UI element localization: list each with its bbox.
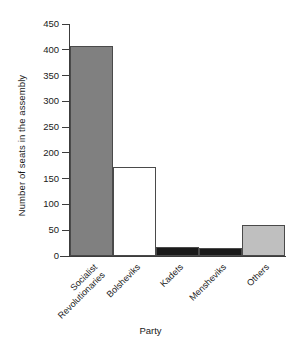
bar-bolsheviks xyxy=(113,167,156,256)
y-axis-tick-label: 150 xyxy=(43,174,59,184)
bar-kadets xyxy=(156,247,199,256)
y-axis-tick xyxy=(62,75,69,76)
bar-others xyxy=(242,225,285,256)
bar-socialist-revolutionaries xyxy=(70,46,113,256)
y-axis-tick-label: 250 xyxy=(43,122,59,132)
x-axis-line xyxy=(60,256,286,257)
y-axis-tick xyxy=(62,101,69,102)
y-axis-tick xyxy=(62,178,69,179)
y-axis-tick xyxy=(62,204,69,205)
y-axis-tick-label: 400 xyxy=(43,45,59,55)
y-axis-tick-label: 300 xyxy=(43,96,59,106)
y-axis-tick xyxy=(62,152,69,153)
y-axis-tick-label: 200 xyxy=(43,148,59,158)
y-axis-tick-label: 350 xyxy=(43,71,59,81)
bar-chart: Number of seats in the assembly 05010015… xyxy=(0,0,301,346)
y-axis-tick-label: 0 xyxy=(54,251,59,261)
bar-mensheviks xyxy=(199,248,242,256)
x-axis-title: Party xyxy=(0,325,301,336)
y-axis-tick-label: 100 xyxy=(43,199,59,209)
y-axis-title: Number of seats in the assembly xyxy=(16,41,27,251)
plot-area xyxy=(70,24,285,256)
y-axis-tick xyxy=(62,256,69,257)
y-axis-tick xyxy=(62,127,69,128)
y-axis-tick-label: 450 xyxy=(43,19,59,29)
y-axis-tick xyxy=(62,24,69,25)
y-axis-tick xyxy=(62,49,69,50)
y-axis-tick xyxy=(62,230,69,231)
y-axis-tick-label: 50 xyxy=(48,225,59,235)
